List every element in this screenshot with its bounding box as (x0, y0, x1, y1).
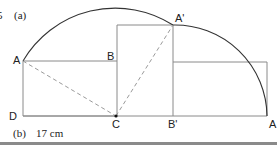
label-A-end: A (269, 119, 276, 130)
part-b-label: (b) (13, 128, 26, 139)
rect-right (173, 62, 267, 116)
arc-left (23, 8, 173, 61)
dashed-CA-prime (116, 25, 173, 116)
label-D: D (9, 111, 17, 122)
label-B-prime: B' (168, 119, 177, 130)
label-A-prime: A' (175, 13, 184, 24)
geometry-figure (0, 0, 277, 145)
arc-right (173, 25, 267, 116)
diagram-root: 5 (a) A B A' D C B' A (b) 17 cm (0, 0, 277, 145)
label-A: A (13, 55, 20, 66)
answer-b: 17 cm (36, 128, 63, 139)
label-B: B (107, 51, 114, 62)
label-C: C (112, 119, 120, 130)
divider (0, 142, 277, 145)
dashed-AC (23, 61, 116, 116)
question-number: 5 (0, 10, 3, 21)
part-a-label: (a) (14, 10, 26, 21)
